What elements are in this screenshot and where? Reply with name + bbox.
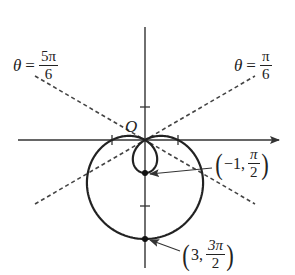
comma: , — [241, 155, 245, 173]
open-paren: ( — [182, 240, 190, 270]
denominator: 2 — [212, 255, 220, 271]
numerator: π — [248, 147, 260, 164]
numerator: π — [260, 49, 272, 66]
equals-sign: = — [25, 56, 35, 76]
origin-label: O — [125, 117, 137, 137]
outer-point-pointer — [150, 240, 180, 251]
point-r: 3 — [191, 246, 199, 264]
point-r: −1 — [224, 155, 241, 173]
line-label-pi-6: θ = π 6 — [234, 49, 272, 82]
point-label-inner: ( −1 , π 2 ) — [214, 147, 270, 180]
close-paren: ) — [226, 240, 234, 270]
fraction: 5π 6 — [39, 49, 58, 82]
point-theta: 3π 2 — [206, 238, 225, 271]
denominator: 6 — [45, 66, 53, 82]
theta-symbol: θ — [234, 56, 242, 76]
equals-sign: = — [246, 56, 256, 76]
open-paren: ( — [215, 149, 223, 179]
numerator: 5π — [39, 49, 58, 66]
point-theta: π 2 — [248, 147, 260, 180]
line-label-5pi-6: θ = 5π 6 — [13, 49, 58, 82]
polar-graph — [0, 0, 295, 275]
theta-symbol: θ — [13, 56, 21, 76]
point-inner-marker — [142, 170, 148, 176]
comma: , — [199, 246, 203, 264]
point-outer-marker — [142, 236, 148, 242]
point-label-outer: ( 3 , 3π 2 ) — [181, 238, 235, 271]
fraction: π 6 — [260, 49, 272, 82]
denominator: 6 — [262, 66, 270, 82]
denominator: 2 — [250, 164, 258, 180]
numerator: 3π — [206, 238, 225, 255]
close-paren: ) — [261, 149, 269, 179]
